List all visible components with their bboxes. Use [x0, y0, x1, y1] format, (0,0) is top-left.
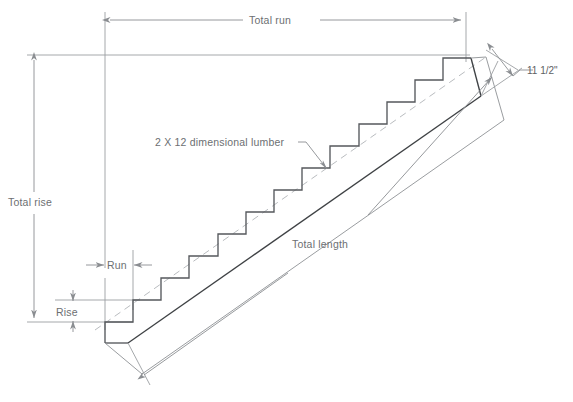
- rise-dimension: Rise: [56, 290, 78, 332]
- run-label: Run: [107, 259, 127, 271]
- dashed-lumber-top-edge: [95, 57, 486, 330]
- total-length-line-upper: [368, 77, 492, 215]
- stair-stringer-diagram: Total run Total rise Run Rise: [0, 0, 573, 402]
- stringer-step-profile: [105, 58, 471, 343]
- total-length-line-lower: [144, 273, 288, 375]
- total-length-dimension: Total length: [128, 61, 498, 385]
- total-run-label: Total run: [249, 14, 291, 26]
- total-rise-dimension: Total rise: [8, 60, 52, 318]
- total-length-ext-left: [128, 343, 150, 385]
- lumber-board-outline: [105, 57, 504, 374]
- extension-lines: [27, 12, 470, 330]
- board-width-ext-upper: [486, 50, 518, 70]
- rise-label: Rise: [56, 306, 78, 318]
- board-top-right-edge: [471, 57, 486, 58]
- lumber-callout: 2 X 12 dimensional lumber: [155, 136, 327, 169]
- lumber-callout-leader: [298, 142, 327, 169]
- stringer-bottom-cut-line: [128, 96, 481, 343]
- run-dimension: Run: [86, 259, 152, 271]
- total-rise-label: Total rise: [8, 196, 52, 208]
- stair-diagram-canvas: Total run Total rise Run Rise: [0, 0, 573, 402]
- total-run-dimension: Total run: [110, 14, 461, 26]
- board-width-label: 11 1/2": [527, 65, 558, 76]
- board-width-arrow: [492, 49, 513, 76]
- lumber-callout-label: 2 X 12 dimensional lumber: [155, 136, 285, 148]
- total-length-label: Total length: [292, 238, 348, 250]
